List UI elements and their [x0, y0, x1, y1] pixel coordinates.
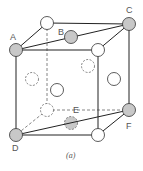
label-D: D	[12, 143, 19, 153]
atom-right-face	[108, 73, 121, 86]
label-A: A	[10, 32, 16, 42]
label-E: E	[73, 105, 79, 115]
atom-front-bottom-right	[92, 129, 105, 142]
atom-front-top-right	[92, 44, 105, 57]
label-B: B	[58, 27, 64, 37]
atom-D	[10, 129, 23, 142]
atom-B-top-face	[65, 31, 78, 44]
atom-A	[10, 44, 23, 57]
atom-back-bottom-left	[41, 104, 54, 117]
label-C: C	[126, 5, 133, 15]
atom-left-face	[26, 73, 39, 86]
atom-back-face	[82, 60, 95, 73]
atom-C	[123, 18, 136, 31]
figure-caption: (a)	[66, 151, 76, 160]
atom-F	[123, 104, 136, 117]
atom-back-top-left	[41, 17, 54, 30]
label-F: F	[126, 121, 132, 131]
fcc-unit-cell-diagram: A B C D E F (a)	[0, 0, 143, 171]
atom-front-face	[51, 84, 64, 97]
